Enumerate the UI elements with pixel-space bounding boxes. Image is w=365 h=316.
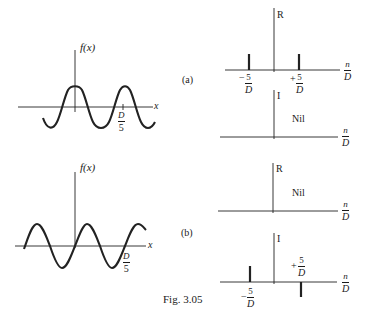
panel-b-ylabel: f(x): [80, 162, 95, 173]
panel-b-tick-label: D 5: [123, 252, 130, 274]
panel-b-label: (b): [181, 228, 193, 238]
panel-a-tick-label: D 5: [118, 111, 125, 133]
panel-a-real-neg-label: 5 D: [245, 73, 252, 95]
panel-b-imag-neg-label: 5 D: [247, 287, 254, 309]
figure-canvas: [0, 0, 365, 316]
panel-a-xlabel: x: [154, 101, 158, 111]
panel-b-tick-den: 5: [124, 264, 129, 274]
xunit-num: n: [343, 200, 348, 209]
panel-a-real-xunit: n D: [344, 60, 351, 82]
panel-a-time-graph: [18, 50, 155, 128]
xunit-num: n: [343, 126, 348, 135]
xunit-den: D: [342, 212, 349, 222]
panel-a-imag-axis-label: I: [277, 91, 280, 101]
pos-den: D: [296, 85, 303, 95]
panel-a-label: (a): [182, 75, 193, 85]
panel-b-xlabel: x: [148, 240, 152, 250]
neg-num: 5: [248, 287, 253, 296]
panel-a-imag-nil: Nil: [292, 114, 305, 124]
pos-den: D: [298, 268, 305, 278]
panel-b-imag-xunit: n D: [342, 272, 349, 294]
xunit-num: n: [343, 272, 348, 281]
panel-b-real-axis-label: R: [276, 164, 283, 174]
xunit-den: D: [342, 138, 349, 148]
pos-num: 5: [297, 73, 302, 82]
neg-den: D: [247, 299, 254, 309]
panel-a-imag-xunit: n D: [342, 126, 349, 148]
neg-den: D: [245, 85, 252, 95]
panel-b-imag-pos-sign: +: [291, 261, 297, 271]
figure-caption: Fig. 3.05: [163, 294, 202, 305]
panel-b-imag-neg-sign: −: [241, 292, 247, 302]
panel-b-imag-pos-label: 5 D: [298, 256, 305, 278]
panel-b-imag-axis-label: I: [277, 234, 280, 244]
panel-b-real-xunit: n D: [342, 200, 349, 222]
xunit-num: n: [345, 60, 350, 69]
pos-num: 5: [299, 256, 304, 265]
panel-a-tick-num: D: [118, 111, 125, 120]
panel-a-ylabel: f(x): [80, 42, 95, 53]
panel-a-real-pos-sign: +: [290, 74, 296, 84]
panel-a-real-pos-label: 5 D: [296, 73, 303, 95]
panel-a-tick-den: 5: [119, 123, 124, 133]
xunit-den: D: [342, 284, 349, 294]
xunit-den: D: [344, 72, 351, 82]
panel-a-real-neg-sign: −: [239, 73, 245, 83]
neg-num: 5: [246, 73, 251, 82]
panel-b-tick-num: D: [123, 252, 130, 261]
panel-b-real-nil: Nil: [292, 188, 305, 198]
panel-a-real-axis-label: R: [277, 10, 284, 20]
